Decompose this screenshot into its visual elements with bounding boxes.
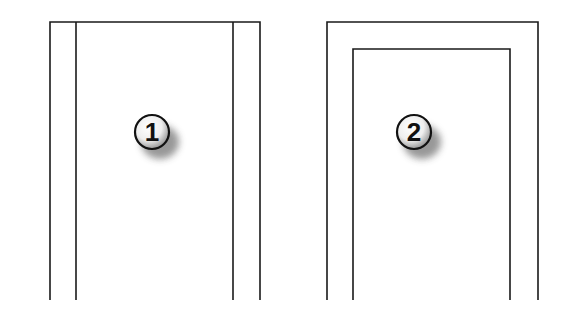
figure-1: 1	[50, 22, 260, 300]
diagram-canvas: 1 2	[0, 0, 564, 321]
figure-2: 2	[327, 22, 538, 300]
figure-2-outer-frame	[327, 22, 538, 300]
figure-2-inner-frame	[353, 49, 510, 300]
figure-2-number-badge: 2	[397, 115, 441, 159]
figure-1-number-badge: 1	[135, 115, 179, 159]
figure-1-number: 1	[145, 117, 159, 147]
figure-2-number: 2	[407, 117, 421, 147]
figure-1-outer-frame	[50, 22, 260, 300]
